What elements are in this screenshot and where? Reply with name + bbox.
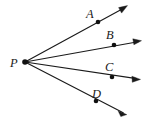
point-b-label: B: [106, 28, 114, 42]
point-c-label: C: [105, 60, 114, 74]
point-c-dot: [110, 75, 115, 80]
vertex-p-label: P: [9, 56, 18, 70]
point-d-label: D: [91, 87, 101, 101]
ray-pb-line: [25, 42, 138, 62]
point-a-label: A: [85, 7, 94, 21]
ray-pb-group: B: [25, 28, 142, 62]
ray-pa-arrowhead: [119, 6, 128, 14]
geometry-figure: A B C D P: [0, 0, 144, 124]
vertex-p-dot: [22, 59, 28, 65]
point-b-dot: [112, 43, 117, 48]
ray-pc-arrowhead: [132, 76, 141, 82]
rays-diagram-svg: A B C D P: [0, 0, 144, 124]
point-a-dot: [96, 20, 101, 25]
ray-pb-arrowhead: [133, 39, 142, 45]
vertex-p-group: P: [9, 56, 28, 70]
